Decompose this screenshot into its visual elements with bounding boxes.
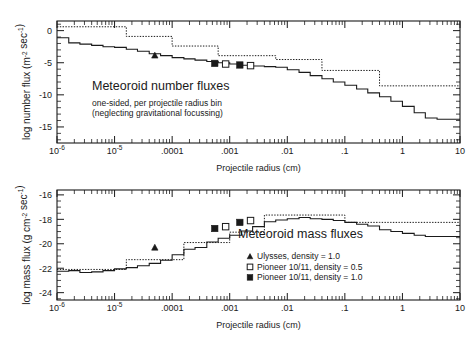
x-tick-label: 10 xyxy=(455,303,465,313)
marker-square-open xyxy=(222,223,228,229)
panel-subtitle-line2: (neglecting gravitational focussing) xyxy=(92,108,223,118)
x-tick-label: 10-5 xyxy=(107,144,123,156)
y-tick-label: -16 xyxy=(39,190,52,200)
y-tick-label: -18 xyxy=(39,215,52,225)
marker-square-open xyxy=(247,217,253,223)
y-tick-label: 0 xyxy=(47,26,52,36)
y-axis-title: log number flux (m-2 sec-1) xyxy=(14,24,32,140)
marker-triangle-filled xyxy=(247,254,253,259)
y-tick-label: -20 xyxy=(39,239,52,249)
marker-square-open xyxy=(247,62,253,68)
y-axis-title: log mass flux (g cm-2 sec-1) xyxy=(14,185,32,304)
x-tick-label: 10 xyxy=(455,146,465,156)
figure-canvas: 10-610-5.0001.001.01.11100-5-10-15Projec… xyxy=(0,0,475,339)
x-tick-label: .01 xyxy=(281,303,294,313)
y-tick-label: -15 xyxy=(39,122,52,132)
y-tick-label: -22 xyxy=(39,264,52,274)
x-tick-label: 10-6 xyxy=(49,144,65,156)
panel-title-mass-flux: Meteoroid mass fluxes xyxy=(238,227,363,241)
marker-triangle-filled xyxy=(152,244,158,250)
meteoroid-flux-figure: 10-610-5.0001.001.01.11100-5-10-15Projec… xyxy=(0,0,475,339)
panel-mass-flux: 10-610-5.0001.001.01.1110-16-18-20-22-24… xyxy=(14,185,465,330)
marker-square-filled xyxy=(247,275,253,281)
x-tick-label: .001 xyxy=(221,146,239,156)
x-tick-label: 1 xyxy=(400,146,405,156)
marker-triangle-filled xyxy=(152,52,158,58)
marker-square-open xyxy=(247,264,253,270)
legend-label: Ulysses, density = 1.0 xyxy=(257,251,340,261)
x-tick-label: .1 xyxy=(341,146,349,156)
series-model-dotted xyxy=(57,27,460,86)
x-tick-label: .001 xyxy=(221,303,239,313)
x-axis-title: Projectile radius (cm) xyxy=(216,163,301,173)
legend: Ulysses, density = 1.0Pioneer 10/11, den… xyxy=(247,251,363,282)
plot-frame xyxy=(57,190,460,300)
x-tick-label: 1 xyxy=(400,303,405,313)
legend-label: Pioneer 10/11, density = 0.5 xyxy=(257,262,363,272)
marker-square-filled xyxy=(212,60,218,66)
x-tick-label: 10-6 xyxy=(49,301,65,313)
x-axis-title: Projectile radius (cm) xyxy=(216,320,301,330)
x-tick-label: .0001 xyxy=(161,146,184,156)
marker-square-open xyxy=(222,61,228,67)
x-tick-label: .1 xyxy=(341,303,349,313)
panel-title-number-flux: Meteoroid number fluxes xyxy=(92,79,230,93)
legend-label: Pioneer 10/11, density = 1.0 xyxy=(257,272,363,282)
y-tick-label: -10 xyxy=(39,90,52,100)
x-tick-label: 10-5 xyxy=(107,301,123,313)
marker-square-filled xyxy=(212,225,218,231)
y-tick-label: -5 xyxy=(44,58,52,68)
panel-number-flux: 10-610-5.0001.001.01.11100-5-10-15Projec… xyxy=(14,21,465,173)
marker-square-filled xyxy=(237,62,243,68)
marker-square-filled xyxy=(237,219,243,225)
x-tick-label: .01 xyxy=(281,146,294,156)
x-tick-label: .0001 xyxy=(161,303,184,313)
y-tick-label: -24 xyxy=(39,288,52,298)
panel-subtitle-line1: one-sided, per projectile radius bin xyxy=(92,98,222,108)
